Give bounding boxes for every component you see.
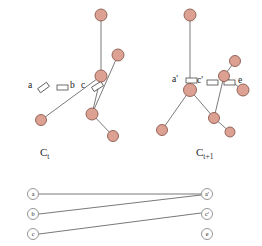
right-label-c-prime: c' — [197, 75, 203, 85]
bip-left-c-label: c — [32, 230, 35, 237]
bip-edge-c-cprime — [39, 213, 201, 234]
left-bottom-node — [108, 131, 119, 142]
bip-right-e-label: e — [206, 230, 209, 237]
bip-right-a-prime-label: a' — [205, 190, 209, 197]
connector-b — [57, 85, 68, 90]
left-lower-left-node — [36, 115, 47, 126]
right-top-right-node — [230, 56, 241, 67]
panel-left — [36, 9, 125, 142]
right-label-a-prime: a' — [172, 74, 178, 84]
figure-root: abca'c'e abcCta'c'eCt+1 — [0, 0, 262, 246]
right-far-right-node — [237, 84, 249, 96]
panel-caption-right: Ct+1 — [196, 146, 213, 161]
left-label-b: b — [70, 80, 75, 90]
panel-right — [157, 9, 250, 137]
bipartite-matching-graph: abca'c'e — [28, 189, 213, 240]
bip-left-a-label: a — [32, 190, 35, 197]
figure-svg: abca'c'e — [0, 0, 262, 246]
left-label-c: c — [81, 80, 85, 90]
bip-right-c-prime-label: c' — [205, 210, 209, 217]
caption-subscript: t+1 — [203, 152, 213, 161]
panel-caption-left: Ct — [40, 146, 49, 161]
right-lower-mid-node — [209, 113, 220, 124]
left-label-a: a — [28, 80, 32, 90]
caption-subscript: t — [47, 152, 49, 161]
right-top-node — [184, 9, 196, 21]
bip-edge-b-aprime — [39, 195, 201, 214]
connector-a — [38, 82, 50, 93]
left-top-node — [95, 9, 107, 21]
left-center-node — [95, 70, 107, 82]
right-label-e: e — [238, 75, 242, 85]
edge-center-lowerleft — [162, 90, 190, 130]
connector-a-prime — [186, 78, 197, 83]
bip-left-b-label: b — [31, 210, 34, 217]
left-upper-right-node — [112, 49, 124, 61]
left-lower-mid-node — [86, 108, 98, 120]
connector-c-prime — [207, 80, 218, 85]
right-lower-left-node — [157, 125, 168, 136]
right-branch-node — [219, 71, 230, 82]
right-center-node — [184, 84, 197, 97]
right-bottom-right-node — [225, 127, 235, 137]
